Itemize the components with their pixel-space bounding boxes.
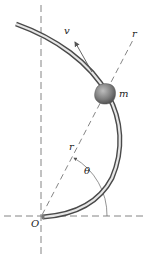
rod-end-cap [41, 214, 44, 219]
mass-label: m [119, 88, 128, 99]
theta-label: θ [84, 165, 90, 176]
bead-mass [95, 84, 116, 104]
origin-label: O [31, 218, 39, 229]
radius-label: r [69, 141, 75, 152]
velocity-label: v [64, 25, 70, 36]
diagram-canvas: v r m r θ O [0, 0, 150, 264]
radial-axis-label: r [132, 28, 138, 39]
